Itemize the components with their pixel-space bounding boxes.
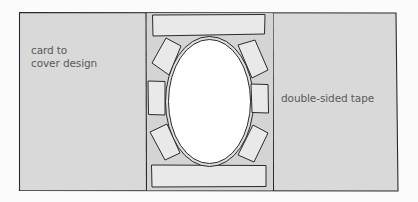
window-oval bbox=[169, 40, 251, 164]
tape-bottom bbox=[152, 165, 267, 187]
tape-label: double-sided tape bbox=[281, 92, 374, 105]
left-fold-line bbox=[146, 13, 147, 191]
diagram-canvas: card to cover design double-sided tape bbox=[0, 0, 418, 202]
right-fold-line bbox=[273, 13, 274, 191]
tape-top bbox=[153, 15, 266, 37]
tape-right-middle bbox=[251, 84, 269, 113]
card-label: card to cover design bbox=[31, 44, 97, 70]
tape-left-middle bbox=[148, 81, 165, 115]
